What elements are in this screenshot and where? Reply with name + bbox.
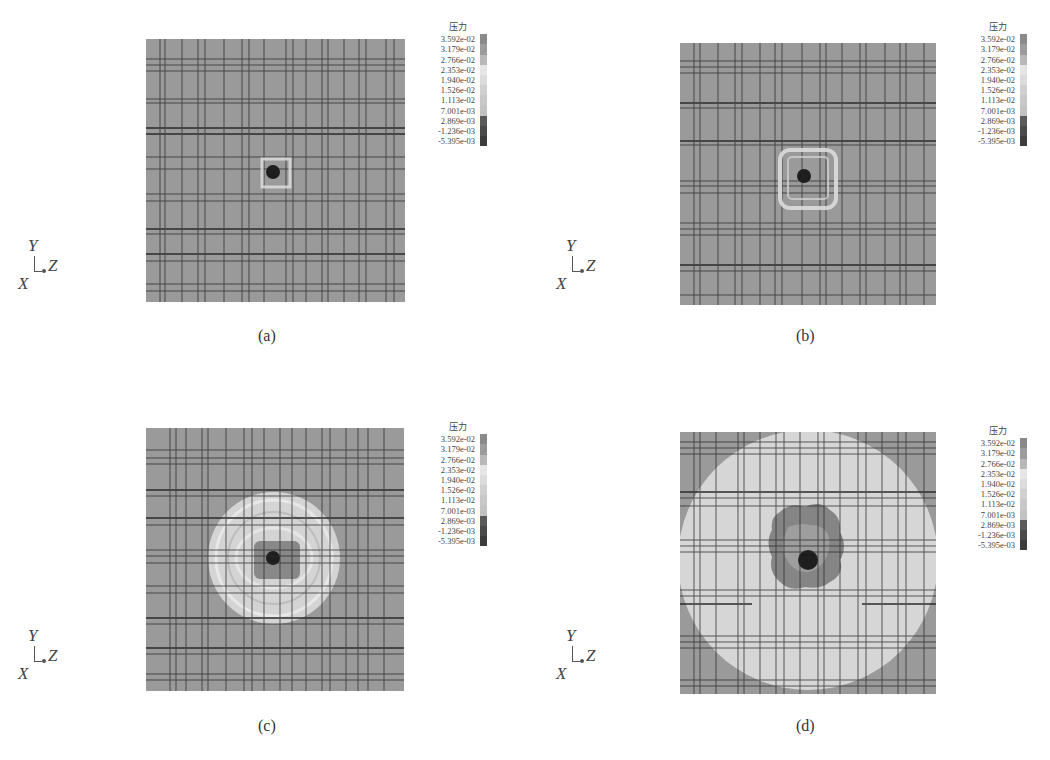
- legend-value: 7.001e-03: [963, 106, 1015, 116]
- legend-value: 7.001e-03: [423, 106, 475, 116]
- legend-value: 3.592e-02: [963, 438, 1015, 448]
- mesh-grid-c: [146, 428, 404, 691]
- axis-triad-c: Y Z X: [14, 626, 74, 686]
- legend-title: 压力: [423, 422, 493, 432]
- caption-d: (d): [796, 717, 815, 735]
- legend-value: -1.236e-03: [963, 126, 1015, 136]
- axis-x-label: X: [18, 274, 28, 294]
- legend-value: 1.940e-02: [423, 75, 475, 85]
- legend-value: 2.766e-02: [423, 55, 475, 65]
- axis-z-label: Z: [586, 646, 595, 666]
- legend-value: 1.940e-02: [423, 475, 475, 485]
- axis-z-label: Z: [48, 256, 57, 276]
- legend-value: 3.592e-02: [963, 34, 1015, 44]
- legend-value: -1.236e-03: [963, 530, 1015, 540]
- legend-value: 3.179e-02: [423, 444, 475, 454]
- pressure-contour-plot-b: [680, 43, 936, 305]
- legend-value: 3.179e-02: [963, 44, 1015, 54]
- legend-value: 2.766e-02: [963, 459, 1015, 469]
- legend-value: 1.113e-02: [423, 495, 475, 505]
- legend-value: -5.395e-03: [423, 136, 475, 146]
- legend-value: 2.869e-03: [423, 116, 475, 126]
- legend-value: -5.395e-03: [963, 540, 1015, 550]
- legend-value: 7.001e-03: [963, 510, 1015, 520]
- legend-value: 3.592e-02: [423, 34, 475, 44]
- caption-a: (a): [258, 327, 276, 345]
- axis-y-label: Y: [28, 626, 37, 646]
- axis-triad-b: Y Z X: [552, 236, 612, 296]
- mesh-grid-a: [146, 39, 405, 302]
- pressure-contour-plot-a: [146, 39, 405, 302]
- legend-value: 3.179e-02: [963, 448, 1015, 458]
- axis-z-label: Z: [586, 256, 595, 276]
- legend-value: 1.526e-02: [963, 85, 1015, 95]
- legend-value: 1.940e-02: [963, 75, 1015, 85]
- legend-value: 7.001e-03: [423, 506, 475, 516]
- color-legend-a: 压力 3.592e-02 3.179e-02 2.766e-02 2.353e-…: [423, 22, 493, 146]
- legend-value: 2.353e-02: [423, 465, 475, 475]
- mesh-grid-d: [680, 432, 936, 694]
- color-legend-b: 压力 3.592e-02 3.179e-02 2.766e-02 2.353e-…: [963, 22, 1033, 146]
- caption-b: (b): [796, 327, 815, 345]
- axis-triad-d: Y Z X: [552, 626, 612, 686]
- legend-value: -5.395e-03: [423, 536, 475, 546]
- caption-c: (c): [258, 717, 276, 735]
- legend-value: 2.353e-02: [423, 65, 475, 75]
- axis-y-label: Y: [566, 236, 575, 256]
- legend-value: 1.113e-02: [963, 95, 1015, 105]
- legend-value: 1.940e-02: [963, 479, 1015, 489]
- mesh-grid-b: [680, 43, 936, 305]
- legend-value: -1.236e-03: [423, 526, 475, 536]
- legend-title: 压力: [423, 22, 493, 32]
- pressure-contour-plot-c: [146, 428, 404, 691]
- legend-value: 2.766e-02: [423, 455, 475, 465]
- legend-value: 3.179e-02: [423, 44, 475, 54]
- legend-value: 3.592e-02: [423, 434, 475, 444]
- axis-x-label: X: [18, 664, 28, 684]
- color-legend-d: 压力 3.592e-02 3.179e-02 2.766e-02 2.353e-…: [963, 426, 1033, 550]
- pressure-contour-plot-d: [680, 432, 936, 694]
- legend-value: 1.113e-02: [963, 499, 1015, 509]
- axis-triad-a: Y Z X: [14, 236, 74, 296]
- legend-title: 压力: [963, 426, 1033, 436]
- legend-value: 1.526e-02: [423, 485, 475, 495]
- legend-value: 1.526e-02: [423, 85, 475, 95]
- axis-z-label: Z: [48, 646, 57, 666]
- legend-value: 2.766e-02: [963, 55, 1015, 65]
- axis-x-label: X: [556, 664, 566, 684]
- legend-value: 1.113e-02: [423, 95, 475, 105]
- legend-value: 2.353e-02: [963, 65, 1015, 75]
- legend-value: -1.236e-03: [423, 126, 475, 136]
- color-legend-c: 压力 3.592e-02 3.179e-02 2.766e-02 2.353e-…: [423, 422, 493, 546]
- legend-title: 压力: [963, 22, 1033, 32]
- axis-y-label: Y: [28, 236, 37, 256]
- axis-x-label: X: [556, 274, 566, 294]
- legend-value: 1.526e-02: [963, 489, 1015, 499]
- legend-value: 2.869e-03: [963, 520, 1015, 530]
- legend-value: 2.353e-02: [963, 469, 1015, 479]
- axis-y-label: Y: [566, 626, 575, 646]
- legend-value: 2.869e-03: [423, 516, 475, 526]
- legend-value: -5.395e-03: [963, 136, 1015, 146]
- legend-value: 2.869e-03: [963, 116, 1015, 126]
